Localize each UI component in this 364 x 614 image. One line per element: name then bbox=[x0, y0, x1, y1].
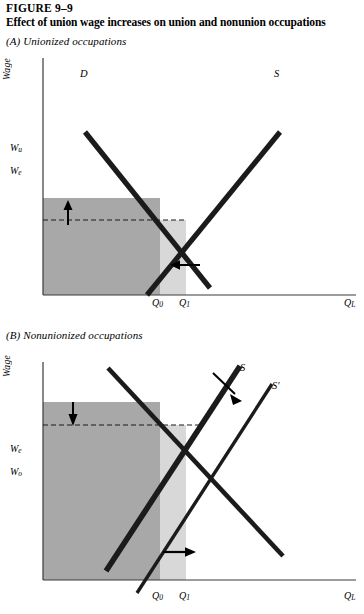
panel-a-curve-label-d: D bbox=[80, 68, 88, 79]
figure-heading: FIGURE 9–9 Effect of union wage increase… bbox=[6, 2, 358, 29]
panel-b-tick-we: We bbox=[10, 443, 22, 455]
panel-b-tick-q0: Q0 bbox=[152, 590, 163, 602]
panel-b-tick-wo: Wo bbox=[10, 466, 22, 478]
panel-a-supply-curve bbox=[147, 132, 280, 295]
panel-b-plot bbox=[0, 344, 364, 614]
panel-a-plot bbox=[0, 50, 364, 315]
panel-a-caption: (A) Unionized occupations bbox=[6, 35, 126, 47]
panel-b-caption: (B) Nonunionized occupations bbox=[6, 329, 143, 341]
panel-a-tick-q1: Q1 bbox=[179, 297, 190, 309]
panel-a-region-union-wage-bill bbox=[43, 198, 160, 295]
panel-a-tick-wu: Wu bbox=[10, 142, 22, 154]
panel-a-curve-label-s: S bbox=[274, 68, 279, 79]
panel-b-region-nonunion-wage-bill bbox=[43, 402, 160, 580]
figure-number: FIGURE 9–9 bbox=[6, 2, 358, 15]
panel-b-tick-q1: Q1 bbox=[179, 590, 190, 602]
panel-a-x-axis-label: QL bbox=[344, 297, 355, 309]
panel-b-curve-label-s: S bbox=[240, 362, 245, 373]
panel-b-curve-label-s-prime: S′ bbox=[272, 380, 280, 391]
figure-title: Effect of union wage increases on union … bbox=[6, 15, 358, 29]
panel-a-tick-we: We bbox=[10, 165, 22, 177]
panel-b-nonunionized-occupations bbox=[0, 344, 364, 614]
panel-a-tick-q0: Q0 bbox=[152, 297, 163, 309]
panel-b-x-axis-label: QL bbox=[344, 590, 355, 602]
panel-a-unionized-occupations bbox=[0, 50, 364, 315]
